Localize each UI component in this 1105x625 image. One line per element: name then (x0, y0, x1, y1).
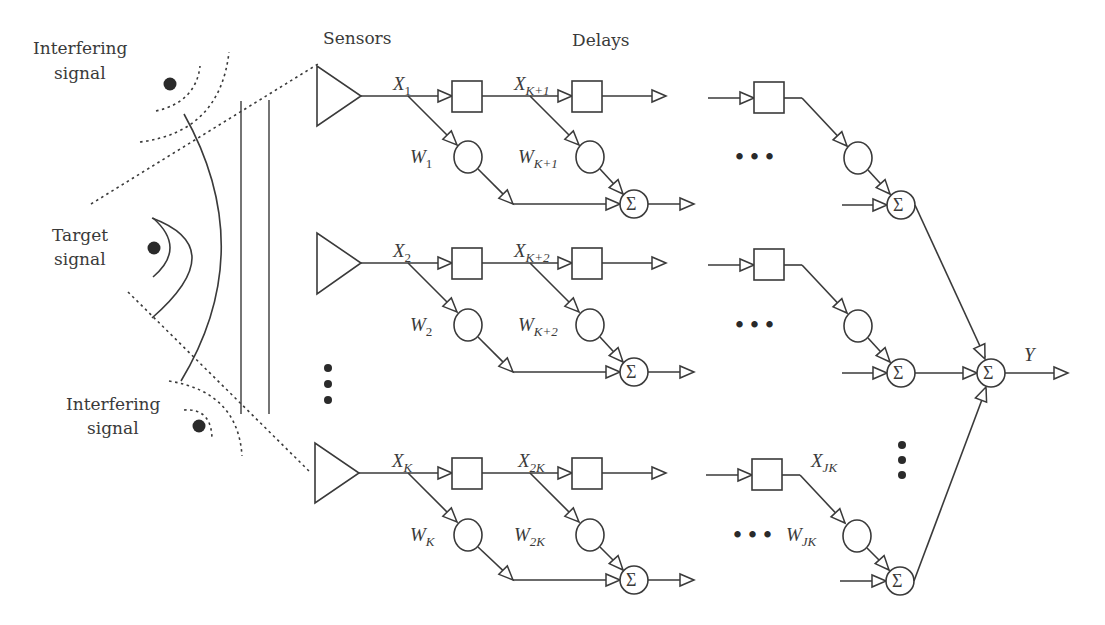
delay-box-K-2 (572, 458, 602, 489)
final-summation: Σ Y (914, 205, 1068, 581)
delay-box-1-1 (452, 81, 482, 112)
delay-box-1-J (754, 82, 784, 113)
interfering-top-label-line1: Interfering (33, 38, 128, 58)
x1-label: X1 (392, 73, 411, 98)
x2K-label: X2K (517, 450, 546, 475)
weight-multiplier-2-J (844, 310, 872, 342)
sum-symbol: Σ (626, 194, 636, 214)
ellipsis-horizontal-icon: ••• (731, 523, 776, 548)
sum-symbol: Σ (892, 571, 902, 591)
arrow-icon (652, 467, 666, 479)
arrow-icon (873, 367, 887, 379)
arrow-icon (438, 257, 452, 269)
sensor-K-icon (315, 443, 359, 503)
arrow-icon (740, 92, 754, 104)
target-label-line1: Target (52, 225, 108, 245)
delay-box-1-2 (572, 81, 602, 112)
interfering-bottom-label-line2: signal (87, 418, 139, 438)
arrow-icon (738, 469, 752, 481)
sensor-1-icon (317, 66, 361, 126)
row-sensor-2: Σ X2 W2 XK+2 WK+2 Σ ••• (317, 233, 915, 387)
sum-symbol: Σ (626, 362, 636, 382)
interfering-bottom-wavefront-2 (169, 381, 242, 456)
row-sensor-K: Σ XK WK X2K W2K Σ XJK WJK ••• (315, 443, 914, 595)
weight-multiplier-1-1 (454, 141, 482, 173)
wK-label: WK (410, 524, 436, 549)
arrow-icon (872, 575, 886, 587)
xk1-label: XK+1 (513, 73, 550, 98)
wJK-label: WJK (786, 524, 818, 549)
xK-label: XK (391, 450, 414, 475)
sum-symbol: Σ (983, 363, 993, 383)
weight-multiplier-K-1 (454, 519, 482, 551)
sum-symbol: Σ (893, 363, 903, 383)
wk1-label: WK+1 (518, 146, 558, 171)
wk2-label: WK+2 (518, 314, 558, 339)
weight-multiplier-2-1 (454, 309, 482, 341)
interfering-source-bottom-icon (193, 420, 206, 433)
interfering-top-label-line2: signal (54, 63, 106, 83)
target-wavefront-3 (181, 114, 221, 381)
sum-symbol: Σ (893, 195, 903, 215)
weight-multiplier-K-2 (576, 519, 604, 551)
delay-box-K-J (752, 459, 782, 490)
w2-label: W2 (410, 314, 432, 339)
output-arrow-icon (1054, 367, 1068, 379)
ellipsis-vertical-icon (324, 364, 332, 404)
ellipsis-horizontal-icon: ••• (733, 145, 778, 170)
arrow-icon (558, 467, 572, 479)
w1-label: W1 (410, 146, 432, 171)
sensor-2-icon (317, 233, 361, 294)
delay-box-2-1 (452, 248, 482, 279)
arrow-icon (558, 90, 572, 102)
arrow-icon (438, 90, 452, 102)
weight-multiplier-2-2 (576, 309, 604, 341)
xJK-label: XJK (810, 450, 838, 475)
arrow-icon (740, 259, 754, 271)
interfering-bottom-label-line1: Interfering (66, 394, 161, 414)
row-sensor-1: Σ X1 W1 XK+1 WK+1 Σ ••• (317, 66, 915, 219)
arrow-icon (680, 366, 694, 378)
target-label-line2: signal (54, 249, 106, 269)
beam-boundary-top (91, 64, 318, 204)
arrow-icon (606, 198, 620, 210)
interfering-top-wavefront-1 (156, 66, 200, 111)
delay-box-K-1 (452, 458, 482, 489)
weight-multiplier-1-2 (576, 141, 604, 173)
beam-boundary-bottom (128, 292, 310, 472)
weight-multiplier-K-J (843, 520, 871, 552)
w2K-label: W2K (514, 524, 546, 549)
arrow-icon (606, 574, 620, 586)
delay-box-2-J (754, 249, 784, 280)
ellipsis-vertical-icon (898, 441, 906, 479)
weight-multiplier-1-J (844, 142, 872, 174)
sum-symbol: Σ (626, 570, 636, 590)
delays-header: Delays (572, 30, 630, 50)
x2-label: X2 (392, 240, 411, 265)
arrow-icon (558, 257, 572, 269)
arrow-icon (963, 367, 977, 379)
target-wavefront-2 (152, 218, 192, 318)
arrow-icon (680, 198, 694, 210)
beamformer-diagram: Interfering signal Target signal Interfe… (0, 0, 1105, 625)
xk2-label: XK+2 (513, 240, 550, 265)
output-y-label: Y (1024, 344, 1037, 365)
arrow-icon (606, 366, 620, 378)
ellipsis-horizontal-icon: ••• (733, 313, 778, 338)
sensors-header: Sensors (323, 28, 391, 48)
arrow-icon (680, 574, 694, 586)
arrow-icon (438, 467, 452, 479)
target-source-icon (148, 242, 161, 255)
interfering-source-top-icon (164, 78, 177, 91)
delay-box-2-2 (572, 248, 602, 279)
arrow-icon (652, 257, 666, 269)
arrow-icon (873, 199, 887, 211)
arrow-icon (652, 90, 666, 102)
signal-field: Interfering signal Target signal Interfe… (33, 38, 318, 472)
